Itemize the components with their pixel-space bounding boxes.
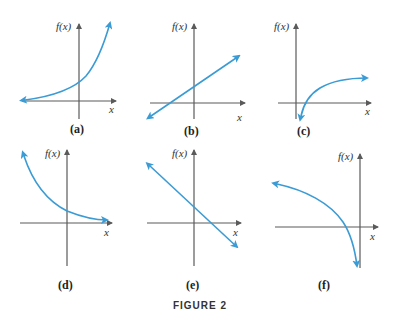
panel-b: f(x) x (b) bbox=[150, 20, 245, 138]
y-axis-label: f(x) bbox=[338, 150, 354, 163]
panel-e: f(x) x (e) bbox=[147, 147, 241, 292]
line bbox=[151, 56, 239, 116]
x-axis-label: x bbox=[364, 105, 370, 117]
panel-label: (f) bbox=[318, 278, 330, 292]
y-axis-label: f(x) bbox=[172, 20, 188, 33]
panel-label: (c) bbox=[297, 124, 310, 138]
panel-label: (b) bbox=[184, 124, 199, 138]
curve bbox=[277, 184, 357, 266]
y-axis-label: f(x) bbox=[172, 147, 188, 160]
curve bbox=[25, 23, 110, 100]
panel-d: f(x) x (d) bbox=[20, 147, 112, 292]
y-axis-label: f(x) bbox=[56, 20, 72, 33]
x-axis-label: x bbox=[103, 226, 109, 238]
panel-a: f(x) x (a) bbox=[22, 20, 116, 136]
x-axis-label: x bbox=[108, 103, 114, 115]
curve bbox=[301, 78, 367, 116]
panel-label: (d) bbox=[58, 278, 73, 292]
y-axis-label: f(x) bbox=[45, 147, 61, 160]
panel-label: (e) bbox=[186, 278, 199, 292]
panel-label: (a) bbox=[70, 122, 84, 136]
curve bbox=[24, 156, 107, 220]
y-axis-label: f(x) bbox=[274, 20, 290, 33]
x-axis-label: x bbox=[236, 111, 242, 123]
panel-f: f(x) x (f) bbox=[275, 150, 378, 292]
x-axis-label: x bbox=[232, 226, 238, 238]
figure-caption: FIGURE 2 bbox=[173, 300, 227, 311]
figure-2-diagram: f(x) x (a) f(x) x (b) f(x) x (c) f(x) x … bbox=[0, 0, 396, 322]
x-axis-label: x bbox=[369, 230, 375, 242]
panel-c: f(x) x (c) bbox=[274, 20, 371, 138]
